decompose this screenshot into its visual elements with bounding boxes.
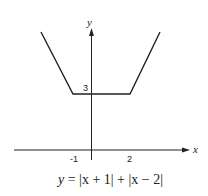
y-axis-arrow-icon [89,28,94,36]
caption: y = |x + 1| + |x − 2| [56,172,163,187]
x-axis-label: x [192,143,198,155]
y-axis-label: y [86,16,92,28]
x-tick-2: 2 [127,154,132,164]
x-axis-arrow-icon [182,148,190,153]
x-tick-neg1: -1 [70,154,78,164]
y-tick-3: 3 [83,83,88,93]
function-curve [41,32,160,94]
chart: x y 3 -1 2 y = |x + 1| + |x − 2| [0,0,208,196]
